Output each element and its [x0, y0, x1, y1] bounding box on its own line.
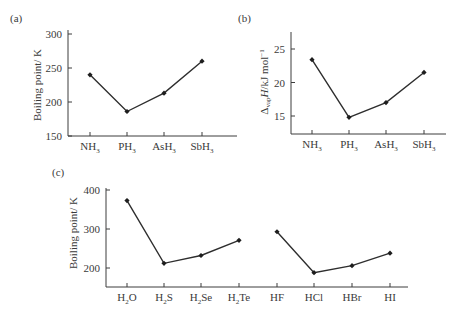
y-axis-label-c: Boiling point/ K: [67, 197, 79, 269]
x-tick-label: HBr: [343, 291, 362, 303]
data-line: [277, 232, 390, 273]
panel-label-b: (b): [238, 12, 251, 25]
axes-b: 152025NH3PH3AsH3SbH3: [274, 32, 446, 153]
data-point-marker: [198, 253, 203, 258]
x-tick-label: NH3: [302, 138, 322, 153]
y-axis-label-a: Boiling point/ K: [31, 49, 43, 121]
chart-panel-a: (a) Boiling point/ K 150200250300NH3PH3A…: [10, 12, 237, 155]
axis-lines: [68, 30, 237, 136]
x-tick-label: NH3: [80, 140, 100, 155]
y-tick-label: 200: [46, 96, 63, 108]
y-tick-label: 15: [274, 110, 286, 122]
x-tick-label: H2Te: [228, 291, 250, 306]
y-tick-label: 200: [84, 262, 101, 274]
chart-panel-b: (b) ΔvapH/kJ mol−1 152025NH3PH3AsH3SbH3: [238, 12, 446, 153]
axis-lines: [106, 188, 408, 287]
panel-label-a: (a): [10, 12, 23, 25]
data-point-marker: [387, 251, 392, 256]
x-tick-label: SbH3: [412, 138, 436, 153]
x-tick-label: HI: [384, 291, 396, 303]
y-tick-label: 300: [84, 223, 101, 235]
x-tick-label: PH3: [118, 140, 136, 155]
y-tick-label: 400: [84, 184, 101, 196]
x-tick-label: AsH3: [374, 138, 398, 153]
y-tick-label: 150: [46, 130, 63, 142]
y-tick-label: 250: [46, 62, 63, 74]
axes-c: 200300400H2OH2SH2SeH2TeHFHClHBrHI: [84, 184, 409, 306]
x-tick-label: AsH3: [152, 140, 176, 155]
chart-panel-c: (c) Boiling point/ K 200300400H2OH2SH2Se…: [52, 166, 408, 306]
x-tick-label: H2Se: [190, 291, 213, 306]
x-tick-label: HCl: [305, 291, 323, 303]
x-tick-label: HF: [270, 291, 284, 303]
data-point-marker: [236, 238, 241, 243]
x-tick-label: H2O: [117, 291, 136, 306]
figure: (a) Boiling point/ K 150200250300NH3PH3A…: [0, 0, 459, 315]
x-tick-label: SbH3: [190, 140, 214, 155]
axis-lines: [291, 32, 446, 134]
data-line: [90, 61, 202, 111]
panel-label-c: (c): [52, 166, 65, 179]
axes-a: 150200250300NH3PH3AsH3SbH3: [46, 28, 238, 155]
y-axis-label-b: ΔvapH/kJ mol−1: [258, 49, 272, 115]
y-tick-label: 20: [274, 77, 286, 89]
data-line: [127, 201, 239, 264]
data-point-marker: [349, 263, 354, 268]
x-tick-label: PH3: [340, 138, 358, 153]
x-tick-label: H2S: [155, 291, 173, 306]
y-tick-label: 300: [46, 28, 63, 40]
data-line: [312, 60, 424, 118]
y-tick-label: 25: [274, 43, 286, 55]
